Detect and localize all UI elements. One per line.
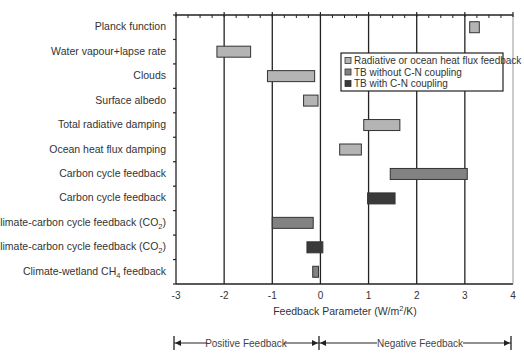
x-tick-label: -1 xyxy=(268,290,277,301)
negative-feedback-label: Negative Feedback xyxy=(377,338,464,349)
x-tick-label: 3 xyxy=(462,290,468,301)
positive-feedback-label: Positive Feedback xyxy=(205,338,288,349)
feedback-annotations: Positive FeedbackNegative Feedback xyxy=(174,336,511,350)
x-tick-label: 4 xyxy=(510,290,516,301)
category-label: Climate-wetland CH4 feedback xyxy=(23,265,167,280)
feedback-parameter-chart: Planck functionWater vapour+lapse rateCl… xyxy=(0,0,524,361)
x-tick-label: 0 xyxy=(318,290,324,301)
arrowhead-icon xyxy=(312,340,318,346)
bar xyxy=(470,22,480,33)
arrowhead-icon xyxy=(504,340,510,346)
x-axis-title: Feedback Parameter (W/m2/K) xyxy=(273,304,417,317)
legend-swatch xyxy=(345,81,351,87)
bar xyxy=(364,120,400,131)
bar xyxy=(267,71,314,82)
category-label: Total radiative damping xyxy=(58,118,166,130)
category-label: Clouds xyxy=(133,69,166,81)
bar xyxy=(313,266,319,277)
x-tick-label: -3 xyxy=(172,290,181,301)
bar xyxy=(272,217,313,228)
category-label: Water vapour+lapse rate xyxy=(51,45,166,57)
legend-swatch xyxy=(345,69,351,75)
bar xyxy=(304,95,318,106)
bar xyxy=(368,193,395,204)
category-label: Ocean heat flux damping xyxy=(49,143,166,155)
category-label: Surface albedo xyxy=(95,94,166,106)
arrowhead-icon xyxy=(320,340,326,346)
arrowhead-icon xyxy=(175,340,181,346)
bar xyxy=(340,144,362,155)
legend-swatch xyxy=(345,58,351,64)
category-label: Climate-carbon cycle feedback (CO2) xyxy=(0,216,166,231)
x-tick-labels: -3-2-101234 xyxy=(172,290,517,301)
x-tick-label: 1 xyxy=(366,290,372,301)
legend-entry: TB with C-N coupling xyxy=(354,78,448,89)
x-tick-label: 2 xyxy=(414,290,420,301)
bar xyxy=(390,168,467,179)
legend: Radiative or ocean heat flux feedbackTB … xyxy=(341,53,522,91)
bar xyxy=(307,242,323,253)
legend-entry: TB without C-N coupling xyxy=(354,67,462,78)
legend-entry: Radiative or ocean heat flux feedback xyxy=(354,55,522,66)
category-label: Climate-carbon cycle feedback (CO2) xyxy=(0,240,166,255)
bar xyxy=(217,46,251,57)
category-label: Carbon cycle feedback xyxy=(59,191,167,203)
x-tick-label: -2 xyxy=(220,290,229,301)
category-label: Planck function xyxy=(95,20,166,32)
category-label: Carbon cycle feedback xyxy=(59,167,167,179)
category-labels: Planck functionWater vapour+lapse rateCl… xyxy=(0,20,167,280)
